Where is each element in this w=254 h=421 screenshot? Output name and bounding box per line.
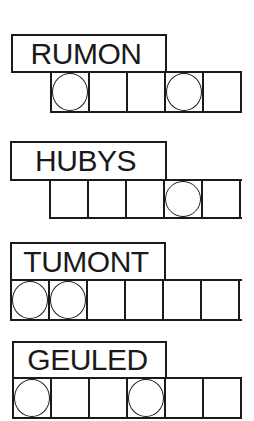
answer-cell[interactable]: [128, 73, 166, 111]
scrambled-word-label: HUBYS: [10, 141, 167, 181]
answer-cell[interactable]: [127, 181, 165, 217]
answer-cell-circled[interactable]: [165, 181, 203, 217]
answer-cell[interactable]: [204, 73, 242, 111]
answer-letter-row: [12, 377, 242, 419]
answer-cell[interactable]: [126, 281, 164, 319]
answer-letter-row: [50, 71, 242, 113]
answer-cell[interactable]: [90, 73, 128, 111]
answer-cell[interactable]: [203, 181, 241, 217]
answer-cell-circled[interactable]: [128, 379, 166, 417]
scrambled-word-label: TUMONT: [10, 242, 166, 281]
answer-cell[interactable]: [52, 379, 90, 417]
answer-cell[interactable]: [90, 379, 128, 417]
scrambled-word-label: RUMON: [11, 34, 167, 73]
answer-cell[interactable]: [51, 181, 89, 217]
answer-letter-row: [49, 179, 242, 219]
answer-cell[interactable]: [166, 379, 204, 417]
answer-cell-circled[interactable]: [12, 281, 50, 319]
answer-letter-row: [10, 279, 242, 321]
answer-cell[interactable]: [164, 281, 202, 319]
answer-cell[interactable]: [204, 379, 242, 417]
answer-cell[interactable]: [202, 281, 240, 319]
answer-cell[interactable]: [89, 181, 127, 217]
answer-cell-circled[interactable]: [166, 73, 204, 111]
scrambled-word-label: GEULED: [12, 341, 167, 379]
answer-cell-circled[interactable]: [14, 379, 52, 417]
answer-cell-circled[interactable]: [50, 281, 88, 319]
answer-cell[interactable]: [88, 281, 126, 319]
answer-cell-circled[interactable]: [52, 73, 90, 111]
